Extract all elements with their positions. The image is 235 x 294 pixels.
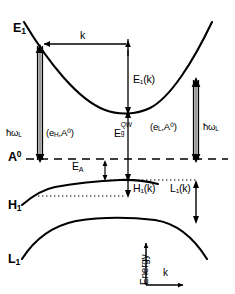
acceptor-binding-energy-arrow bbox=[103, 160, 108, 181]
e1k-measure-arrow bbox=[125, 50, 131, 115]
acceptor-binding-label: EA bbox=[72, 161, 83, 174]
photon-energy-left-label: ħωL bbox=[6, 128, 22, 139]
band-label-a0: A0 bbox=[8, 150, 21, 163]
transition-left-label: (eH,A⁰) bbox=[46, 128, 74, 139]
right-optical-transition-arrow bbox=[192, 77, 201, 163]
photon-energy-right-label: ħωL bbox=[203, 122, 219, 133]
left-optical-transition-arrow bbox=[36, 44, 45, 163]
bandgap-qw-label: E QW g bbox=[114, 124, 121, 140]
e1k-label: E₁(k) bbox=[133, 74, 155, 85]
conduction-band-e1-curve bbox=[24, 22, 212, 114]
h1k-label: H₁(k) bbox=[133, 183, 155, 194]
light-hole-band-l1-curve bbox=[22, 218, 207, 259]
band-diagram-canvas bbox=[0, 0, 235, 294]
l1k-measure-arrow bbox=[193, 180, 199, 224]
band-label-l1: L1 bbox=[8, 253, 20, 266]
band-label-e1: E1 bbox=[13, 22, 26, 35]
axis-indicator bbox=[146, 243, 183, 285]
k-span-label: k bbox=[80, 30, 85, 41]
k-span-arrow bbox=[44, 39, 131, 56]
transition-right-label: (eL,A⁰) bbox=[150, 122, 177, 133]
band-label-h1: H1 bbox=[8, 199, 21, 212]
l1k-label: L₁(k) bbox=[170, 183, 191, 194]
axis-label-k: k bbox=[163, 268, 168, 278]
h1k-measure-arrow bbox=[125, 181, 131, 198]
band-structure-figure: E1 A0 H1 L1 k E₁(k) H₁(k) L₁(k) EA E QW … bbox=[0, 0, 235, 294]
axis-label-energy: Energy bbox=[140, 255, 150, 286]
